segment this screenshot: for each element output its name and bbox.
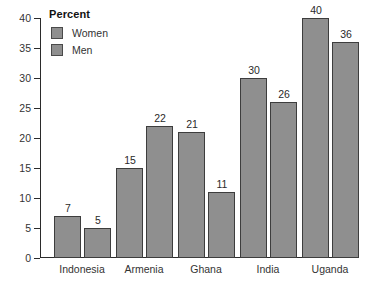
y-axis-tick (34, 48, 40, 49)
bar-value-label: 15 (115, 155, 145, 166)
legend-swatch-women-icon (51, 27, 63, 39)
y-axis-tick-label: 35 (0, 43, 31, 53)
bar-ghana-men[interactable] (208, 192, 235, 258)
legend-item-men[interactable]: Men (51, 41, 108, 58)
y-axis-tick (34, 258, 40, 259)
bar-group: 4036 (302, 18, 360, 258)
y-axis-tick (34, 198, 40, 199)
legend-label-women: Women (72, 27, 108, 39)
bar-group: 3026 (240, 18, 298, 258)
bar-group: 2111 (178, 18, 236, 258)
y-axis-tick (34, 138, 40, 139)
y-axis-tick-label: 5 (0, 223, 31, 233)
bar-indonesia-women[interactable] (54, 216, 81, 258)
bar-india-men[interactable] (270, 102, 297, 258)
bar-value-label: 36 (331, 29, 361, 40)
bar-ghana-women[interactable] (178, 132, 205, 258)
bar-value-label: 30 (239, 65, 269, 76)
y-axis-tick-label: 15 (0, 163, 31, 173)
y-axis-tick (34, 228, 40, 229)
legend-item-women[interactable]: Women (51, 24, 108, 41)
bar-uganda-women[interactable] (302, 18, 329, 258)
bar-group: 1522 (116, 18, 174, 258)
bar-uganda-men[interactable] (332, 42, 359, 258)
y-axis-tick-label: 25 (0, 103, 31, 113)
bar-armenia-women[interactable] (116, 168, 143, 258)
legend-label-men: Men (72, 44, 92, 56)
legend-title: Percent (49, 8, 108, 21)
y-axis-tick (34, 108, 40, 109)
category-label-uganda: Uganda (285, 263, 369, 275)
bar-value-label: 5 (83, 215, 113, 226)
y-axis-tick-label: 0 (0, 253, 31, 263)
bar-indonesia-men[interactable] (84, 228, 111, 258)
legend-swatch-men-icon (51, 44, 63, 56)
bar-armenia-men[interactable] (146, 126, 173, 258)
bar-india-women[interactable] (240, 78, 267, 258)
y-axis-tick-label: 10 (0, 193, 31, 203)
y-axis-tick-label: 30 (0, 73, 31, 83)
bar-value-label: 22 (145, 113, 175, 124)
y-axis-tick-label: 20 (0, 133, 31, 143)
legend: Percent Women Men (49, 8, 108, 58)
bar-value-label: 21 (177, 119, 207, 130)
y-axis-tick (34, 168, 40, 169)
y-axis-tick (34, 18, 40, 19)
bar-value-label: 26 (269, 89, 299, 100)
bar-value-label: 11 (207, 179, 237, 190)
bar-value-label: 40 (301, 5, 331, 16)
bar-value-label: 7 (53, 203, 83, 214)
y-axis-tick-label: 40 (0, 13, 31, 23)
y-axis-tick (34, 78, 40, 79)
bar-chart: 0510152025303540 751522211130264036 Indo… (0, 0, 369, 291)
